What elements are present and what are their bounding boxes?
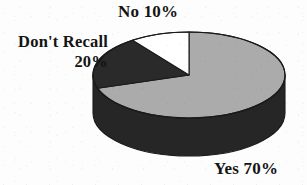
pie-top-face bbox=[93, 32, 285, 118]
pie-label-dont-recall: Don't Recall 20% bbox=[2, 33, 108, 71]
pie-label-yes: Yes 70% bbox=[214, 160, 278, 178]
pie-label-dont-recall-name: Don't Recall bbox=[18, 32, 108, 51]
pie-label-dont-recall-value: 20% bbox=[2, 53, 108, 71]
pie-chart-figure: No 10% Don't Recall 20% Yes 70% bbox=[0, 0, 307, 185]
pie-label-no: No 10% bbox=[118, 3, 178, 21]
pie-chart-graphic bbox=[0, 0, 307, 185]
